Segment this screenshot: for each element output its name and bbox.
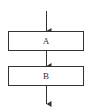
- node-b: B: [8, 66, 84, 86]
- node-b-label: B: [43, 71, 49, 81]
- node-a-label: A: [43, 36, 50, 46]
- node-a: A: [8, 31, 84, 51]
- flowchart-arrows: [0, 0, 96, 109]
